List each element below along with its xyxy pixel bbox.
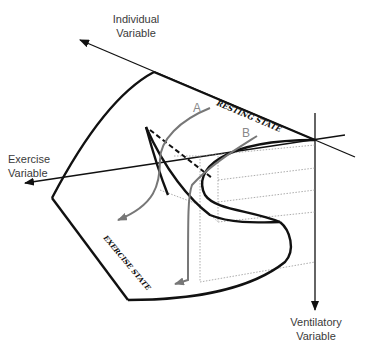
surface: [52, 72, 315, 300]
exercise-variable-label: Exercise Variable: [8, 152, 68, 180]
individual-variable-label: Individual Variable: [94, 12, 178, 40]
projection-grid: [160, 145, 315, 282]
ventilatory-variable-label: Ventilatory Variable: [274, 315, 358, 343]
path-b-label: B: [242, 126, 250, 140]
path-a-label: A: [193, 101, 201, 115]
exercise-state-label: EXERCISE STATE: [101, 233, 153, 293]
